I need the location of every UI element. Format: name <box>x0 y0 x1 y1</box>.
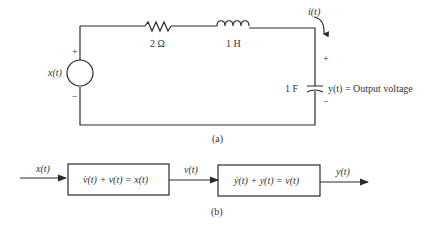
source-plus: + <box>72 46 78 57</box>
caption-b: (b) <box>211 206 223 218</box>
block-2-equation: ẏ(t) + y(t) = v(t) <box>233 175 300 187</box>
wire-top-right <box>249 28 315 86</box>
resistor-icon <box>145 22 171 31</box>
wire-right-bottom <box>80 87 315 125</box>
circuit-a <box>67 17 324 125</box>
voltage-source-icon <box>67 60 93 86</box>
mid-label: v(t) <box>184 164 199 176</box>
capacitor-minus: − <box>323 96 329 107</box>
inductor-label: 1 H <box>226 38 241 49</box>
current-label: i(t) <box>308 6 321 18</box>
output-label-b: y(t) <box>335 166 351 178</box>
source-minus: − <box>72 91 78 102</box>
inductor-icon <box>217 21 249 26</box>
diagram-canvas: + − x(t) 2 Ω 1 H i(t) + − 1 F y(t) = Out… <box>0 0 434 226</box>
resistor-label: 2 Ω <box>150 38 165 49</box>
input-label: x(t) <box>35 163 51 175</box>
capacitor-label: 1 F <box>285 83 299 94</box>
block-1-equation: v̇(t) + v(t) = x(t) <box>83 174 149 186</box>
capacitor-plus: + <box>323 53 329 64</box>
source-label: x(t) <box>47 67 63 79</box>
output-label: y(t) = Output voltage <box>328 83 413 95</box>
caption-a: (a) <box>212 133 223 145</box>
